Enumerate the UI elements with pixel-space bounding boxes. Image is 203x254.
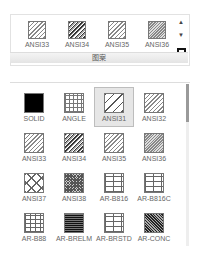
pattern-item-ansi36[interactable]: ANSI36 (137, 21, 177, 48)
brick-small-pattern-icon (24, 213, 44, 233)
pattern-label: ANSI33 (22, 155, 46, 162)
grid-pattern-icon (64, 93, 84, 113)
panel-title: 图案 (10, 52, 188, 63)
pattern-item-ansi37[interactable]: ANSI37 (14, 167, 54, 207)
pattern-gallery: SOLIDANGLEANSI31ANSI32ANSI33ANSI34ANSI35… (10, 82, 190, 253)
pattern-item-solid[interactable]: SOLID (14, 87, 54, 127)
scroll-up-button[interactable]: ▲ (176, 17, 186, 27)
pattern-item-ansi35[interactable]: ANSI35 (97, 21, 137, 48)
hatch-dark-pattern-icon (64, 133, 84, 153)
hatch-dark-pattern-icon (68, 21, 86, 39)
pattern-item-ar-b816c[interactable]: AR-B816C (134, 167, 174, 207)
pattern-label: AR-CONC (138, 235, 171, 242)
hatch-dense-pattern-icon (144, 133, 164, 153)
pattern-item-ar-brstd[interactable]: AR-BRSTD (94, 207, 134, 247)
pattern-item-ansi36[interactable]: ANSI36 (134, 127, 174, 167)
pattern-label: SOLID (23, 115, 44, 122)
pattern-item-ansi38[interactable]: ANSI38 (54, 167, 94, 207)
pattern-item-ar-b88[interactable]: AR-B88 (14, 207, 54, 247)
pattern-item-ansi33[interactable]: ANSI33 (17, 21, 57, 48)
pattern-item-ansi34[interactable]: ANSI34 (54, 127, 94, 167)
pattern-item-ansi33[interactable]: ANSI33 (14, 127, 54, 167)
pattern-item-angle[interactable]: ANGLE (54, 87, 94, 127)
pattern-label: ANSI35 (105, 41, 129, 48)
ribbon-scroll-controls: ▲ ▼ (175, 17, 187, 43)
brick-pattern-icon (104, 213, 124, 233)
pattern-label: ANSI37 (22, 195, 46, 202)
pattern-label: ANSI35 (102, 155, 126, 162)
cross-pattern-icon (24, 173, 44, 193)
brick-pattern-icon (144, 173, 164, 193)
hatch-light-pattern-icon (108, 21, 126, 39)
pattern-label: ANSI38 (62, 195, 86, 202)
pattern-label: AR-BRELM (56, 235, 92, 242)
concrete-pattern-icon (144, 213, 164, 233)
brick-dark-pattern-icon (64, 213, 84, 233)
pattern-label: ANSI34 (62, 155, 86, 162)
crosshatch-pattern-icon (64, 173, 84, 193)
hatch-sparse-pattern-icon (104, 93, 124, 113)
scrollbar-thumb[interactable] (186, 84, 189, 122)
pattern-label: AR-B816C (137, 195, 170, 202)
pattern-item-ansi35[interactable]: ANSI35 (94, 127, 134, 167)
hatch-light-pattern-icon (144, 93, 164, 113)
pattern-label: AR-BRSTD (96, 235, 132, 242)
pattern-item-ansi34[interactable]: ANSI34 (57, 21, 97, 48)
pattern-label: AR-B88 (22, 235, 47, 242)
pattern-label: ANSI31 (102, 115, 126, 122)
pattern-label: ANSI33 (25, 41, 49, 48)
solid-pattern-icon (24, 93, 44, 113)
ribbon-pattern-list: ANSI33ANSI34ANSI35ANSI36 (17, 21, 177, 48)
pattern-item-ar-brelm[interactable]: AR-BRELM (54, 207, 94, 247)
pattern-item-ar-b816[interactable]: AR-B816 (94, 167, 134, 207)
gallery-scrollbar[interactable] (186, 84, 189, 246)
hatch-light-pattern-icon (28, 21, 46, 39)
pattern-item-ansi31[interactable]: ANSI31 (94, 87, 134, 127)
hatch-light-pattern-icon (104, 133, 124, 153)
hatch-light-pattern-icon (24, 133, 44, 153)
pattern-label: ANSI32 (142, 115, 166, 122)
pattern-item-ansi32[interactable]: ANSI32 (134, 87, 174, 127)
brick-pattern-icon (104, 173, 124, 193)
pattern-grid: SOLIDANGLEANSI31ANSI32ANSI33ANSI34ANSI35… (14, 87, 174, 247)
pattern-item-ar-conc[interactable]: AR-CONC (134, 207, 174, 247)
pattern-label: ANSI36 (145, 41, 169, 48)
pattern-label: ANGLE (62, 115, 86, 122)
scroll-down-button[interactable]: ▼ (176, 30, 186, 40)
hatch-dense-pattern-icon (148, 21, 166, 39)
pattern-label: ANSI36 (142, 155, 166, 162)
pattern-label: AR-B816 (100, 195, 128, 202)
pattern-label: ANSI34 (65, 41, 89, 48)
